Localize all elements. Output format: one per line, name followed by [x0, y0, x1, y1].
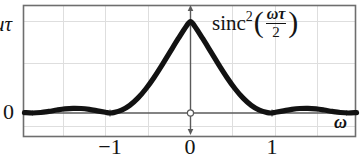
formula-function-name: sinc	[212, 13, 246, 34]
formula-close-paren: )	[288, 7, 298, 37]
y-axis-zero-label: 0	[3, 101, 14, 123]
x-axis-label: ω	[334, 113, 347, 131]
origin-marker	[187, 110, 193, 116]
x-tick-label-one: 1	[267, 136, 278, 158]
x-tick-label-zero: 0	[185, 136, 196, 158]
y-axis-top-label: uτ	[0, 14, 12, 35]
formula-open-paren: (	[254, 7, 264, 37]
formula-denominator: 2	[272, 24, 280, 40]
sinc-squared-figure: uτ 0 ω −1 0 1 sinc2 ( ωτ 2 )	[0, 0, 363, 158]
formula-exponent: 2	[246, 10, 253, 24]
x-tick-label-minus-one: −1	[98, 136, 121, 158]
formula-annotation: sinc2 ( ωτ 2 )	[212, 6, 299, 40]
formula-fraction: ωτ 2	[266, 6, 286, 40]
plot-canvas	[0, 0, 363, 158]
formula-numerator: ωτ	[266, 6, 286, 23]
